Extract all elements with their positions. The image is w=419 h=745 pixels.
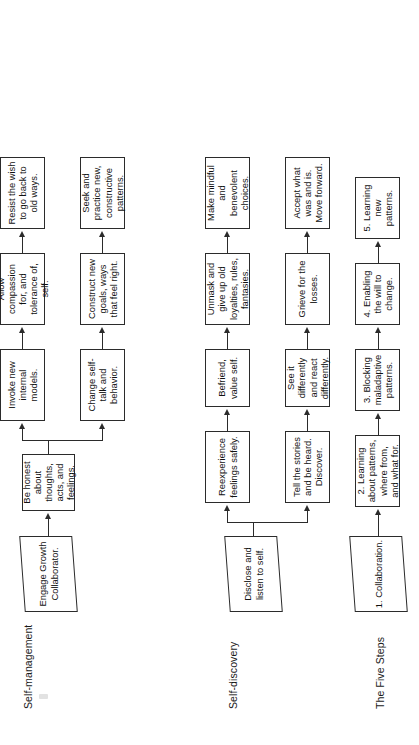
connector-line [307,413,308,431]
node-tell-the-stories[interactable]: Tell the stories and be heard. Discover. [285,431,330,503]
connector-line [378,245,379,263]
connector-arrow [224,505,230,511]
section-self-discovery: Self-discovery Disclose and listen to se… [205,0,339,745]
connector-line [307,331,308,349]
section-label-self-management: Self-management [22,625,34,709]
diagram-sheet: Self-management Engage Growth Collaborat… [0,0,419,745]
connector-line [378,513,379,536]
node-engage-growth-collaborator[interactable]: Engage Growth Collaborator. [22,536,75,612]
node-be-honest-about[interactable]: Be honest about thoughts, acts, and feel… [22,454,75,511]
connector-line [48,441,49,454]
section-self-management: Self-management Engage Growth Collaborat… [0,0,134,745]
connector-arrow [224,409,230,415]
connector-arrow [304,327,310,333]
node-allow-compassion[interactable]: Allow compassion for, and tolerance of, … [0,253,45,325]
connector-arrow [375,509,381,515]
node-make-mindful-choices[interactable]: Make mindful and benevolent choices. [205,157,250,229]
node-seek-and-practice[interactable]: Seek and practice new, constructive patt… [80,157,125,229]
connector-line [102,235,103,253]
connector-line [227,509,228,523]
connector-line [22,235,23,253]
node-invoke-new-internal-models[interactable]: Invoke new internal models. [0,349,45,421]
node-befriend-value-self[interactable]: Befriend, value self. [205,349,250,407]
connector-arrow [99,327,105,333]
node-reexperience-feelings[interactable]: Reexperience feelings safely. [205,431,250,503]
node-grieve-for-the-losses[interactable]: Grieve for the losses. [285,253,330,325]
connector-arrow [19,327,25,333]
connector-line [378,331,379,349]
connector-arrow [224,327,230,333]
node-construct-new-goals[interactable]: Construct new goals, ways that feel righ… [80,253,125,325]
node-change-self-talk[interactable]: Change self-talk and behavior. [80,349,125,421]
connector-arrow [19,423,25,429]
connector-arrow [224,231,230,237]
connector-line [48,517,49,536]
connector-arrow [375,241,381,247]
section-the-five-steps: The Five Steps 1. Collaboration. 2. Lear… [352,0,419,745]
node-accept-what-was[interactable]: Accept what was and is. Move forward. [285,157,330,229]
node-blocking-maladaptive-patterns[interactable]: 3. Blocking maladaptive patterns. [355,349,400,411]
connector-line [22,331,23,349]
connector-line [227,331,228,349]
node-learning-about-patterns[interactable]: 2. Learning about patterns, where from, … [355,435,400,507]
connector-line [227,235,228,253]
node-unmask-and-give-up[interactable]: Unmask and give up old loyalties, rules,… [205,253,250,325]
connector-arrow [304,409,310,415]
section-label-self-discovery: Self-discovery [227,642,239,709]
node-collaboration[interactable]: 1. Collaboration. [352,536,405,612]
connector-line [253,523,254,536]
connector-line [22,427,23,441]
connector-arrow [375,327,381,333]
connector-arrow [375,413,381,419]
connector-line [102,331,103,349]
node-resist-the-wish[interactable]: Resist the wish to go back to old ways. [0,157,45,229]
node-see-it-differently[interactable]: See it differently and react differently… [285,349,330,407]
connector-line [307,509,308,523]
connector-line [22,440,102,441]
node-disclose-and-listen[interactable]: Disclose and listen to self. [227,536,280,612]
connector-line [227,522,307,523]
section-label-the-five-steps: The Five Steps [374,637,386,709]
connector-line [378,417,379,435]
connector-arrow [99,231,105,237]
connector-line [307,235,308,253]
connector-arrow [45,513,51,519]
connector-arrow [304,505,310,511]
connector-arrow [99,423,105,429]
node-learning-new-patterns[interactable]: 5. Learning new patterns. [355,177,400,239]
connector-arrow [304,231,310,237]
connector-line [102,427,103,441]
connector-line [227,413,228,431]
node-enabling-the-will-to-change[interactable]: 4. Enabling the will to change. [355,263,400,325]
connector-arrow [19,231,25,237]
